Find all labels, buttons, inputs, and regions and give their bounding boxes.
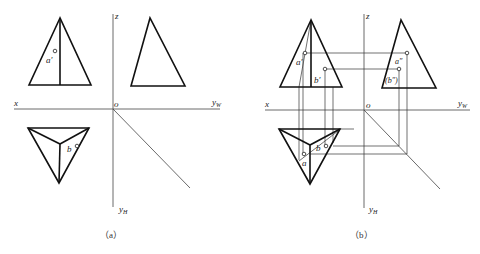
point-b-double-prime-marker [397, 67, 401, 71]
front-view-a: a′ [29, 18, 91, 85]
point-a-label: a [302, 158, 307, 168]
diagonal-45-line [364, 110, 440, 189]
point-a-prime-label: a′ [46, 55, 54, 65]
point-b-prime-label: b′ [314, 75, 322, 85]
point-a-double-prime-marker [405, 51, 409, 55]
point-a-prime-label: a′ [296, 57, 304, 67]
yh-axis-label: yH [118, 204, 128, 215]
caption-b: （b） [350, 230, 373, 240]
point-b-label: b [67, 144, 72, 154]
point-b-marker [324, 144, 328, 148]
point-a-prime-marker [53, 49, 57, 53]
side-view-a [131, 18, 185, 86]
point-a-prime-marker [303, 51, 307, 55]
z-axis-label: z [114, 11, 119, 21]
panel-b: x z o yW yH [264, 11, 470, 240]
point-b-prime-marker [323, 67, 327, 71]
caption-a: （a） [100, 230, 122, 240]
point-b-double-prime-label: (b″) [385, 76, 398, 85]
yh-axis-label: yH [368, 204, 378, 215]
x-axis-label: x [264, 99, 269, 109]
diagonal-45-line [113, 109, 190, 188]
projection-lines [299, 20, 407, 161]
x-axis-label: x [13, 98, 18, 108]
top-view-a: b [28, 128, 89, 183]
yw-axis-label: yW [211, 97, 222, 108]
front-view-b: a′ b′ [280, 20, 342, 87]
projection-diagram: x z o yW yH a′ b （a） [0, 0, 480, 254]
panel-a: x z o yW yH a′ b （a） [13, 11, 222, 240]
point-b-label: b [316, 143, 321, 153]
point-b-marker [75, 144, 79, 148]
origin-label: o [114, 99, 119, 109]
origin-label: o [366, 100, 371, 110]
z-axis-label: z [365, 11, 370, 21]
top-view-b: a b [279, 129, 340, 184]
yw-axis-label: yW [457, 98, 468, 109]
point-a-marker [302, 152, 306, 156]
side-view-b: a″ (b″) [382, 20, 436, 88]
point-a-double-prime-label: a″ [395, 57, 403, 66]
